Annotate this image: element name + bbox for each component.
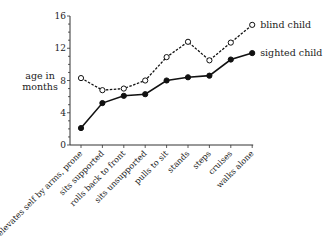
data-point-marker	[78, 75, 83, 80]
data-point-marker	[143, 92, 148, 97]
data-point-marker	[250, 22, 255, 27]
x-category-label: stands	[165, 148, 191, 174]
y-axis-label-line: months	[22, 81, 58, 92]
legend-label: sighted child	[260, 47, 322, 58]
data-point-marker	[185, 39, 190, 44]
legend: blind childsighted child	[260, 19, 322, 58]
data-point-marker	[78, 125, 83, 130]
legend-label: blind child	[260, 19, 311, 30]
data-point-marker	[100, 100, 105, 105]
data-point-marker	[164, 78, 169, 83]
data-point-marker	[121, 93, 126, 98]
data-point-marker	[228, 40, 233, 45]
y-tick-label: 16	[55, 11, 67, 21]
data-point-marker	[207, 73, 212, 78]
data-point-marker	[143, 78, 148, 83]
data-point-marker	[207, 58, 212, 63]
line-chart: 0481216elevates self by arms, pronesits …	[0, 0, 324, 236]
x-category-label: elevates self by arms, prone	[0, 148, 85, 236]
y-tick-label: 4	[60, 108, 66, 118]
y-tick-label: 0	[60, 140, 66, 150]
data-point-marker	[100, 88, 105, 93]
data-point-marker	[228, 57, 233, 62]
data-point-marker	[185, 75, 190, 80]
data-point-marker	[121, 86, 126, 91]
series-group	[78, 22, 254, 130]
y-tick-label: 8	[60, 76, 66, 86]
y-axis-label: age inmonths	[22, 70, 58, 92]
data-point-marker	[250, 50, 255, 55]
y-axis-label-line: age in	[25, 70, 55, 81]
axes: 0481216elevates self by arms, pronesits …	[0, 11, 256, 236]
data-point-marker	[164, 55, 169, 60]
y-tick-label: 12	[55, 43, 66, 53]
series-line	[81, 53, 252, 128]
